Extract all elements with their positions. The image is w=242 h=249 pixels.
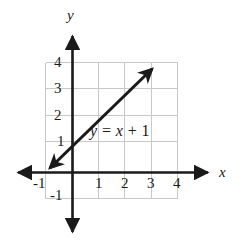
y-axis-label: y bbox=[67, 8, 74, 23]
y-tick-label-4: 4 bbox=[54, 55, 62, 70]
x-axis-label: x bbox=[219, 165, 226, 180]
equation-plus-sign: + bbox=[128, 122, 137, 139]
y-tick-label-2: 2 bbox=[54, 108, 62, 123]
y-tick-label-neg1: -1 bbox=[50, 188, 63, 203]
x-tick-label-2: 2 bbox=[121, 176, 129, 191]
x-tick-label-1: 1 bbox=[95, 176, 103, 191]
x-tick-label-3: 3 bbox=[147, 176, 155, 191]
plotted-line bbox=[50, 69, 152, 168]
equation-equals: = bbox=[102, 122, 111, 139]
y-tick-label-3: 3 bbox=[54, 81, 62, 96]
equation-constant: 1 bbox=[142, 122, 150, 139]
line-y-equals-x-plus-1 bbox=[50, 69, 152, 168]
graph-figure: 4 3 2 1 -1 -1 1 2 3 4 y x y = x + 1 bbox=[0, 0, 242, 249]
equation-lhs: y bbox=[90, 122, 98, 139]
x-tick-label-neg1: -1 bbox=[33, 176, 46, 191]
equation-label: y = x + 1 bbox=[90, 123, 150, 139]
x-tick-label-4: 4 bbox=[173, 176, 181, 191]
y-tick-label-1: 1 bbox=[57, 134, 65, 149]
